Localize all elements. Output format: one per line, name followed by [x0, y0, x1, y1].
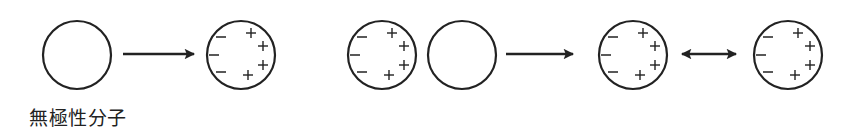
nonpolar-molecule [428, 21, 496, 89]
nonpolar-molecule-caption: 無極性分子 [29, 103, 127, 130]
positive-charge-icon [387, 28, 397, 38]
nonpolar-molecule [43, 21, 111, 89]
positive-charge-icon [384, 70, 394, 80]
positive-charge-icon [638, 28, 648, 38]
polarized-molecule [754, 21, 822, 89]
positive-charge-icon [635, 70, 645, 80]
positive-charge-icon [246, 28, 256, 38]
positive-charge-icon [793, 28, 803, 38]
molecule-circle [428, 21, 496, 89]
polarized-molecule [207, 21, 275, 89]
positive-charge-icon [258, 60, 268, 70]
polarized-molecule [348, 21, 416, 89]
positive-charge-icon [399, 60, 409, 70]
positive-charge-icon [805, 60, 815, 70]
polarized-molecule [599, 21, 667, 89]
positive-charge-icon [399, 41, 409, 51]
polarization-diagram [0, 0, 855, 130]
positive-charge-icon [243, 70, 253, 80]
positive-charge-icon [650, 41, 660, 51]
molecule-circle [43, 21, 111, 89]
positive-charge-icon [258, 41, 268, 51]
positive-charge-icon [650, 60, 660, 70]
positive-charge-icon [790, 70, 800, 80]
positive-charge-icon [805, 41, 815, 51]
